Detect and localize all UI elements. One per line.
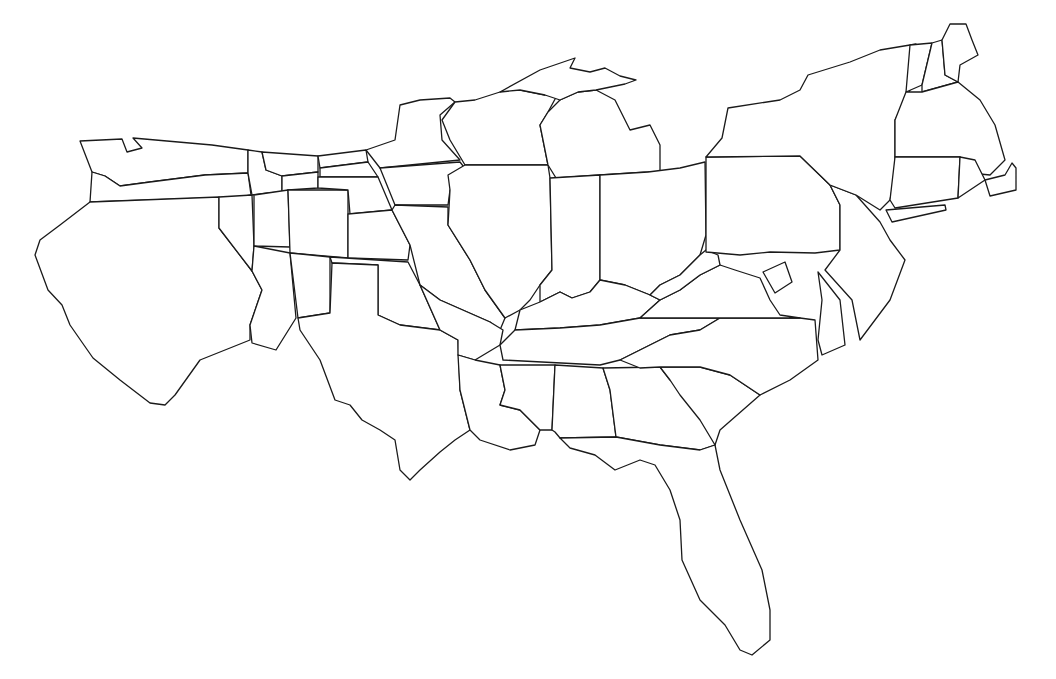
state-region-maryland-dc xyxy=(763,262,792,293)
us-states-outline-map xyxy=(0,0,1056,679)
state-region-colorado xyxy=(288,190,348,258)
state-region-maine xyxy=(942,24,978,82)
map-caption-clipped xyxy=(0,663,1056,679)
state-region-new-mexico xyxy=(290,253,330,318)
state-region-utah xyxy=(254,190,290,247)
state-region-connecticut xyxy=(890,157,960,208)
state-region-michigan xyxy=(540,90,660,178)
state-region-wyoming xyxy=(282,172,318,192)
state-region-minnesota xyxy=(366,98,460,168)
state-region-florida xyxy=(560,437,770,655)
